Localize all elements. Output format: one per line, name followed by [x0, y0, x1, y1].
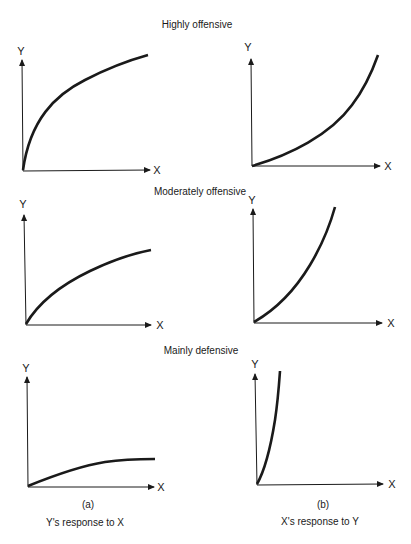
- y-axis-label: Y: [248, 194, 255, 206]
- chart-moderately-offensive-a: [24, 215, 151, 325]
- y-axis-label: Y: [251, 358, 258, 370]
- row-title-mainly-defensive: Mainly defensive: [164, 345, 238, 356]
- y-axis-label: Y: [19, 198, 26, 210]
- y-axis: [24, 215, 26, 325]
- response-curve: [254, 207, 335, 322]
- y-axis: [27, 377, 28, 487]
- response-curve: [257, 371, 280, 484]
- y-axis: [253, 209, 254, 323]
- x-axis-label: X: [156, 319, 163, 331]
- response-curve: [26, 250, 151, 324]
- x-axis: [23, 170, 150, 171]
- y-axis: [255, 374, 257, 485]
- chart-mainly-defensive-a: [27, 377, 155, 487]
- chart-mainly-defensive-b: [255, 371, 383, 485]
- row-title-highly-offensive: Highly offensive: [162, 19, 232, 30]
- chart-moderately-offensive-b: [253, 207, 382, 323]
- row-title-moderately-offensive: Moderately offensive: [154, 186, 246, 197]
- chart-highly-offensive-a: [22, 55, 150, 171]
- diagram-canvas: [0, 0, 411, 544]
- response-curve: [23, 55, 148, 170]
- response-curve: [28, 459, 155, 486]
- x-axis-label: X: [388, 478, 395, 490]
- x-axis: [257, 484, 383, 485]
- column-letter-b: (b): [317, 499, 329, 510]
- y-axis: [251, 59, 252, 166]
- y-axis-label: Y: [22, 362, 29, 374]
- y-axis: [22, 60, 23, 171]
- x-axis-label: X: [153, 164, 160, 176]
- y-axis-label: Y: [244, 41, 251, 53]
- column-letter-a: (a): [82, 499, 94, 510]
- x-axis-label: X: [384, 160, 391, 172]
- column-caption-a: Y's response to X: [46, 517, 124, 528]
- column-caption-b: X's response to Y: [281, 516, 359, 527]
- response-curve: [252, 55, 378, 166]
- chart-highly-offensive-b: [251, 55, 380, 166]
- x-axis-label: X: [387, 317, 394, 329]
- x-axis-label: X: [157, 481, 164, 493]
- y-axis-label: Y: [17, 45, 24, 57]
